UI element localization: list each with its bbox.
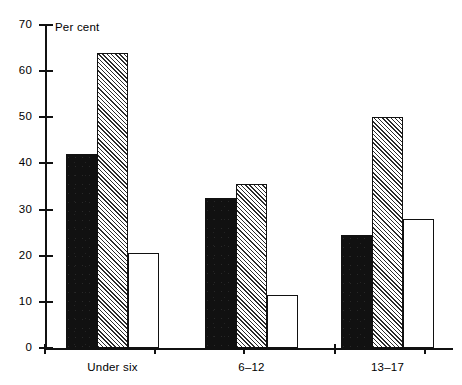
y-axis-tick	[39, 70, 53, 72]
bar	[236, 184, 267, 348]
bar	[372, 117, 403, 348]
x-axis-tick	[44, 344, 46, 354]
y-axis-tick-label: 40	[6, 157, 32, 169]
bar	[66, 154, 97, 348]
bar	[267, 295, 298, 348]
bar	[341, 235, 372, 348]
y-axis-tick	[39, 162, 53, 164]
y-axis-tick-label-wrap: 60	[0, 65, 32, 77]
y-axis-tick	[39, 116, 53, 118]
y-axis-tick-label-wrap: 30	[0, 204, 32, 216]
x-axis-group-label: 13–17	[328, 361, 448, 373]
y-axis-tick-label: 70	[6, 19, 32, 31]
x-axis-group-label: Under six	[53, 361, 173, 373]
y-axis-tick-label: 20	[6, 250, 32, 262]
y-axis-tick-label-wrap: 20	[0, 250, 32, 262]
y-axis-tick-label-wrap: 10	[0, 296, 32, 308]
y-axis-tick	[39, 347, 53, 349]
bar	[128, 253, 159, 348]
bar-chart: Per cent 010203040506070 Under six6–1213…	[0, 0, 462, 385]
y-axis-tick	[39, 24, 53, 26]
y-axis-tick-label-wrap: 70	[0, 19, 32, 31]
x-axis-line	[45, 348, 453, 350]
y-axis-tick-label-wrap: 40	[0, 157, 32, 169]
bar	[205, 198, 236, 348]
y-axis-tick-label: 30	[6, 204, 32, 216]
y-axis-tick-label-wrap: 0	[0, 342, 32, 354]
y-axis-tick-label-wrap: 50	[0, 111, 32, 123]
y-axis-tick	[39, 301, 53, 303]
y-axis-tick	[39, 255, 53, 257]
y-axis-tick	[39, 209, 53, 211]
bar	[403, 219, 434, 348]
y-axis-tick-label: 10	[6, 296, 32, 308]
bar	[97, 53, 128, 348]
y-axis-title: Per cent	[55, 21, 99, 33]
y-axis-tick-label: 0	[6, 342, 32, 354]
y-axis-tick-label: 60	[6, 65, 32, 77]
x-axis-tick	[334, 344, 336, 354]
x-axis-group-label: 6–12	[192, 361, 312, 373]
y-axis-tick-label: 50	[6, 111, 32, 123]
